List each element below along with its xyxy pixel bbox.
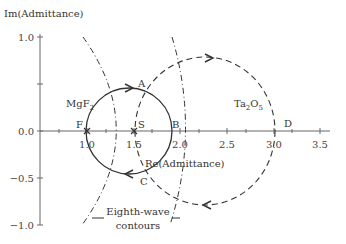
x-tick-25: 2.5 xyxy=(219,139,235,150)
annotation-line2: contours xyxy=(116,220,160,231)
x-tick-15: 1.5 xyxy=(126,139,142,150)
label-d: D xyxy=(284,118,292,129)
label-ta2o5: Ta2O5 xyxy=(234,98,263,112)
label-f: F xyxy=(76,119,83,130)
label-b: B xyxy=(172,119,179,130)
annotation-line1: Eighth-wave xyxy=(106,206,169,217)
label-a: A xyxy=(137,78,146,89)
x-tick-35: 3.5 xyxy=(312,139,328,150)
y-tick-neg05: −0.5 xyxy=(10,173,34,184)
y-axis-label: Im(Admittance) xyxy=(4,8,84,19)
admittance-diagram: 1.0 0.0 −0.5 −1.0 1.0 1.5 2.0 2.5 3.0 3.… xyxy=(0,0,346,244)
y-tick-0: 0.0 xyxy=(18,126,34,137)
label-mgf2: MgF2 xyxy=(66,98,94,112)
label-s: S xyxy=(138,119,145,130)
y-tick-1: 1.0 xyxy=(18,32,34,43)
y-tick-neg1: −1.0 xyxy=(10,220,34,231)
arrow-ta2o5-top xyxy=(205,54,213,62)
label-c: C xyxy=(140,176,148,187)
